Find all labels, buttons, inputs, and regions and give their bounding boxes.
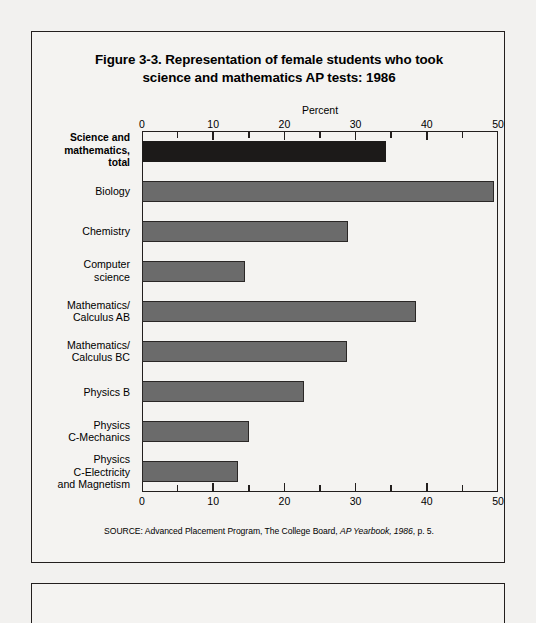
category-label: PhysicsC-Electricityand Magnetism (30, 453, 130, 491)
category-label: Computerscience (30, 259, 130, 284)
x-tick-mark (177, 485, 179, 492)
x-tick-mark (390, 485, 392, 492)
x-tick-mark (177, 131, 179, 138)
bar (142, 341, 347, 362)
figure-title-line2: science and mathematics AP tests: 1986 (58, 69, 480, 87)
bar (142, 461, 238, 482)
x-tick-label-0: 0 (139, 495, 145, 507)
bar (142, 381, 304, 402)
bars-container (142, 131, 498, 492)
category-axis-labels: Science andmathematics,totalBiologyChemi… (32, 131, 136, 492)
x-axis-tick-labels-bottom: 01020304050 (142, 495, 498, 508)
x-tick-label-20: 20 (279, 495, 291, 507)
x-tick-label-40: 40 (421, 495, 433, 507)
category-label: Mathematics/Calculus BC (30, 339, 130, 364)
x-tick-label-30: 30 (350, 495, 362, 507)
x-tick-mark (426, 131, 428, 140)
x-tick-label-40: 40 (421, 118, 433, 130)
category-label: Physics B (30, 385, 130, 398)
source-suffix: , p. 5. (413, 526, 434, 536)
source-note: SOURCE: Advanced Placement Program, The … (32, 526, 506, 536)
x-tick-label-50: 50 (492, 118, 504, 130)
bar (142, 141, 386, 162)
x-tick-mark (248, 131, 250, 138)
x-tick-mark (462, 485, 464, 492)
category-label: Mathematics/Calculus AB (30, 299, 130, 324)
x-tick-mark (462, 131, 464, 138)
category-label: PhysicsC-Mechanics (30, 419, 130, 444)
source-prefix: SOURCE: Advanced Placement Program, The … (104, 526, 340, 536)
x-tick-label-10: 10 (207, 118, 219, 130)
source-italic: AP Yearbook, 1986 (340, 526, 413, 536)
x-tick-label-20: 20 (279, 118, 291, 130)
figure-title: Figure 3-3. Representation of female stu… (58, 51, 480, 87)
x-tick-mark (319, 131, 321, 138)
x-tick-mark (355, 131, 357, 140)
next-figure-box (31, 583, 505, 623)
x-tick-mark (319, 485, 321, 492)
x-tick-mark (212, 131, 214, 140)
x-tick-mark (248, 485, 250, 492)
x-tick-label-50: 50 (492, 495, 504, 507)
category-label: Chemistry (30, 225, 130, 238)
x-tick-mark (284, 483, 286, 492)
x-tick-mark (284, 131, 286, 140)
x-axis-title: Percent (142, 104, 498, 116)
x-tick-label-30: 30 (350, 118, 362, 130)
bar (142, 301, 416, 322)
plot-area (142, 131, 498, 492)
x-tick-mark (390, 131, 392, 138)
bar (142, 221, 348, 242)
x-tick-mark (355, 483, 357, 492)
bar (142, 261, 245, 282)
x-tick-mark (212, 483, 214, 492)
x-tick-label-10: 10 (207, 495, 219, 507)
bar (142, 421, 249, 442)
category-label: Biology (30, 185, 130, 198)
figure-box: Figure 3-3. Representation of female stu… (31, 31, 505, 563)
figure-title-line1: Figure 3-3. Representation of female stu… (95, 52, 443, 67)
x-tick-label-0: 0 (139, 118, 145, 130)
category-label: Science andmathematics,total (30, 132, 130, 170)
x-axis-tick-labels-top: 01020304050 (142, 118, 498, 131)
bar (142, 181, 494, 202)
x-tick-mark (426, 483, 428, 492)
